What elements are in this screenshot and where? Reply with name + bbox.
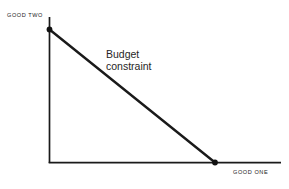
budget-constraint-annotation: Budget constraint [106, 49, 152, 72]
annotation-line-1: Budget [106, 49, 152, 61]
horizontal-intercept-point [212, 160, 218, 166]
vertical-intercept-point [47, 27, 53, 33]
annotation-line-2: constraint [106, 61, 152, 73]
figure-canvas [0, 0, 289, 189]
y-axis-label: GOOD TWO [7, 13, 43, 19]
budget-constraint-figure: GOOD TWO GOOD ONE Budget constraint [0, 0, 289, 189]
x-axis-label: GOOD ONE [233, 170, 268, 176]
